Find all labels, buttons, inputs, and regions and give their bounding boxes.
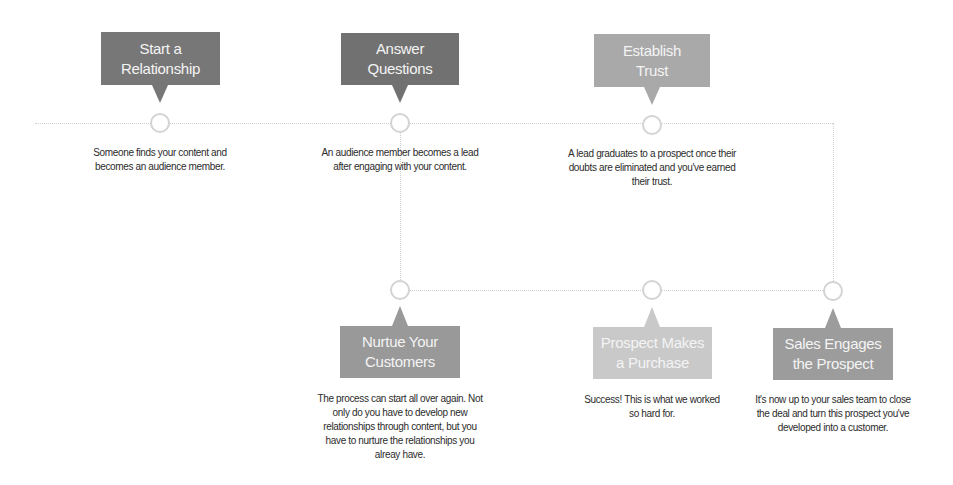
step-title: Sales Engages the Prospect — [784, 334, 881, 374]
callout-box: Start a Relationship — [101, 32, 220, 85]
timeline-node — [390, 113, 410, 133]
callout-pointer — [152, 85, 168, 103]
callout-box: Sales Engages the Prospect — [773, 328, 893, 380]
step-description: Success! This is what we worked so hard … — [572, 393, 732, 421]
timeline-node — [642, 115, 662, 135]
callout-pointer — [392, 85, 408, 103]
bottom-connector-line — [400, 290, 833, 291]
callout-pointer — [392, 306, 408, 326]
step-title: Answer Questions — [368, 39, 433, 79]
step-description: A lead graduates to a prospect once thei… — [547, 147, 757, 189]
step-description: An audience member becomes a lead after … — [300, 146, 500, 174]
step-description: The process can start all over again. No… — [295, 392, 505, 462]
timeline-node — [150, 113, 170, 133]
step-description: Someone finds your content and becomes a… — [70, 146, 250, 174]
step-description: It's now up to your sales team to close … — [738, 393, 928, 435]
step-title: Nurtue Your Customers — [362, 332, 438, 372]
callout-box: Prospect Makes a Purchase — [593, 327, 712, 379]
callout-pointer — [644, 307, 660, 327]
callout-box: Answer Questions — [341, 33, 459, 85]
timeline-node — [642, 280, 662, 300]
step-title: Establish Trust — [623, 41, 681, 81]
callout-box: Establish Trust — [594, 34, 710, 87]
callout-pointer — [825, 308, 841, 328]
callout-box: Nurtue Your Customers — [340, 326, 460, 378]
callout-pointer — [644, 87, 660, 105]
timeline-node — [390, 280, 410, 300]
timeline-node — [823, 281, 843, 301]
step-title: Start a Relationship — [121, 39, 200, 79]
step-title: Prospect Makes a Purchase — [601, 333, 704, 373]
right-connector-line — [833, 123, 834, 291]
